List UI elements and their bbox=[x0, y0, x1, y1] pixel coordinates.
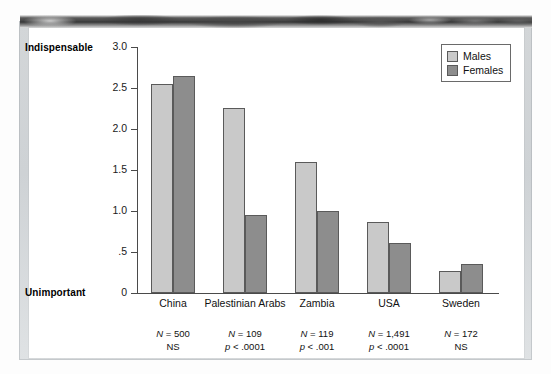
y-tick-label-1.0: 1.0 bbox=[87, 204, 127, 216]
x-axis-label-sweden: Sweden bbox=[401, 297, 521, 309]
legend-label-males: Males bbox=[463, 50, 491, 62]
y-tick-label-.5: .5 bbox=[87, 245, 127, 257]
bar-palestinian-arabs-males bbox=[223, 108, 245, 293]
y-tick-3.0 bbox=[131, 47, 138, 48]
y-tick-label-2.5: 2.5 bbox=[87, 81, 127, 93]
y-tick-label-3.0: 3.0 bbox=[87, 40, 127, 52]
legend-item-females: Females bbox=[447, 63, 503, 77]
bar-usa-males bbox=[367, 222, 389, 293]
y-tick-0 bbox=[131, 293, 138, 294]
legend-swatch-males bbox=[447, 51, 458, 62]
scan-artifact-band bbox=[20, 15, 532, 28]
y-tick-.5 bbox=[131, 252, 138, 253]
y-tick-1.5 bbox=[131, 170, 138, 171]
bar-sweden-females bbox=[461, 264, 483, 293]
y-tick-label-1.5: 1.5 bbox=[87, 163, 127, 175]
bar-china-females bbox=[173, 76, 195, 293]
legend-label-females: Females bbox=[463, 64, 503, 76]
scanned-page: Indispensable Unimportant 3.02.52.01.51.… bbox=[0, 0, 551, 374]
bar-palestinian-arabs-females bbox=[245, 215, 267, 293]
annotation-significance: NS bbox=[401, 340, 521, 353]
x-axis-line bbox=[137, 293, 499, 294]
figure-card: Indispensable Unimportant 3.02.52.01.51.… bbox=[29, 28, 524, 358]
bar-chart-plot: Indispensable Unimportant 3.02.52.01.51.… bbox=[29, 28, 524, 358]
bar-zambia-males bbox=[295, 162, 317, 293]
axis-bottom-label: Unimportant bbox=[25, 287, 85, 298]
y-tick-1.0 bbox=[131, 211, 138, 212]
annotation-n: N = 172 bbox=[401, 327, 521, 340]
chart-legend: Males Females bbox=[441, 44, 511, 82]
legend-item-males: Males bbox=[447, 49, 503, 63]
legend-swatch-females bbox=[447, 65, 458, 76]
y-tick-2.0 bbox=[131, 129, 138, 130]
bar-sweden-males bbox=[439, 271, 461, 293]
bar-china-males bbox=[151, 84, 173, 293]
annotation-sweden: N = 172NS bbox=[401, 327, 521, 353]
y-tick-2.5 bbox=[131, 88, 138, 89]
bar-zambia-females bbox=[317, 211, 339, 293]
y-tick-label-2.0: 2.0 bbox=[87, 122, 127, 134]
axis-top-label: Indispensable bbox=[25, 42, 85, 53]
bar-usa-females bbox=[389, 243, 411, 293]
